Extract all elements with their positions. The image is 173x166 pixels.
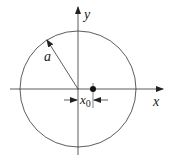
- y-axis-label: y: [82, 7, 91, 22]
- circle-diagram: y x a x0: [0, 0, 173, 166]
- offset-label: x0: [79, 92, 91, 109]
- offset-label-sub: 0: [86, 98, 91, 109]
- x-axis-label: x: [152, 94, 160, 109]
- radius-arrow: [47, 40, 78, 89]
- radius-label: a: [44, 49, 51, 64]
